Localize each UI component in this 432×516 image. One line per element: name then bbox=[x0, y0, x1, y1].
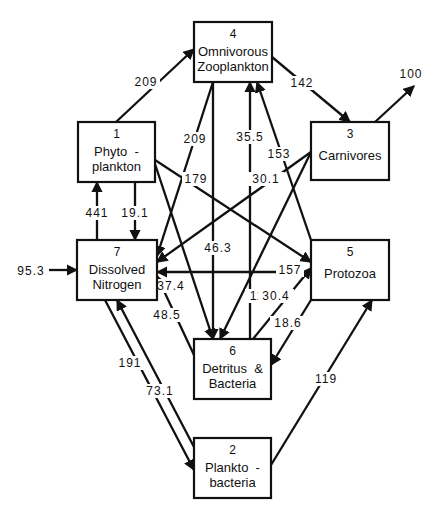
flow-label-group: 119 bbox=[312, 372, 340, 386]
flow-label-group: 48.5 bbox=[149, 308, 185, 322]
flow-label-group: 37.4 bbox=[153, 279, 189, 293]
node-label-line: Dissolved bbox=[89, 262, 145, 277]
flow-value-import-to-7: 95.3 bbox=[17, 264, 44, 278]
flow-arrow-2-to-7 bbox=[117, 300, 194, 447]
flow-value-7-to-2: 191 bbox=[118, 356, 141, 370]
flow-arrow-3-to-export bbox=[375, 86, 414, 122]
flow-value-7-to-1: 441 bbox=[85, 206, 108, 220]
flow-label-group: 179 bbox=[182, 172, 210, 186]
node-6: 6Detritus &Bacteria bbox=[194, 339, 271, 399]
node-number: 5 bbox=[347, 245, 354, 259]
flow-label-group: 73.1 bbox=[142, 384, 178, 398]
node-number: 7 bbox=[114, 245, 121, 259]
flow-label-group: 100 bbox=[397, 67, 425, 81]
flow-label-group: 30.1 bbox=[248, 172, 284, 186]
flow-label-group: 35.5 bbox=[232, 130, 268, 144]
flow-value-3-to-7: 30.1 bbox=[252, 172, 279, 186]
flow-label-group: 95.3 bbox=[13, 264, 49, 278]
node-4: 4OmnivorousZooplankton bbox=[194, 22, 272, 82]
flow-label-group: 18.6 bbox=[270, 316, 306, 330]
flow-label-group: 46.3 bbox=[200, 241, 236, 255]
node-label-line: Zooplankton bbox=[197, 59, 269, 74]
node-label-line: Protozoa bbox=[324, 266, 377, 281]
flow-label-group: 153 bbox=[265, 147, 293, 161]
flow-value-1-to-4: 209 bbox=[134, 75, 157, 89]
flow-label-group: 441 bbox=[83, 206, 111, 220]
node-label-line: Bacteria bbox=[209, 376, 257, 391]
flow-label-group: 191 bbox=[116, 356, 144, 370]
node-label-line: Omnivorous bbox=[198, 44, 269, 59]
flow-value-4-to-3: 142 bbox=[290, 76, 313, 90]
flow-value-5-to-7: 157 bbox=[278, 263, 301, 277]
flow-value-2-to-5: 119 bbox=[315, 372, 337, 386]
node-1: 1Phyto -plankton bbox=[78, 122, 155, 182]
flow-arrow-4-to-7 bbox=[157, 82, 213, 256]
node-number: 1 bbox=[113, 127, 120, 141]
flow-value-1-to-5: 179 bbox=[184, 172, 207, 186]
flow-label-group: 157 bbox=[276, 263, 304, 277]
flow-value-1-to-6: 37.4 bbox=[157, 279, 184, 293]
node-label-line: plankton bbox=[92, 159, 141, 174]
flow-value-2-to-7: 73.1 bbox=[146, 384, 173, 398]
flow-label-group: 30.4 bbox=[258, 289, 294, 303]
flow-value-6-to-7: 48.5 bbox=[153, 308, 180, 322]
flow-value-6-to-5: 30.4 bbox=[262, 289, 289, 303]
flow-value-5-to-6: 18.6 bbox=[274, 316, 301, 330]
flow-label-group: 209 bbox=[132, 75, 160, 89]
flow-value-1-to-7: 19.1 bbox=[121, 206, 148, 220]
node-2: 2Plankto -bacteria bbox=[194, 438, 271, 498]
flow-label-group: 209 bbox=[181, 132, 209, 146]
flow-value-5-to-4: 153 bbox=[267, 147, 290, 161]
flow-value-4-to-7: 209 bbox=[183, 132, 206, 146]
node-label-line: Phyto - bbox=[94, 144, 139, 159]
node-number: 2 bbox=[229, 443, 236, 457]
node-label-line: Carnivores bbox=[319, 148, 382, 163]
node-5: 5Protozoa bbox=[311, 240, 389, 300]
flow-value-3-to-export: 100 bbox=[399, 67, 422, 81]
node-label-line: Nitrogen bbox=[92, 277, 141, 292]
nitrogen-flow-diagram: 20914210095.344119.120917937.446.335.515… bbox=[0, 0, 432, 516]
node-label-line: Plankto - bbox=[205, 460, 260, 475]
flow-label-group: 142 bbox=[288, 76, 316, 90]
node-number: 6 bbox=[229, 344, 236, 358]
node-label-line: bacteria bbox=[209, 475, 256, 490]
node-7: 7DissolvedNitrogen bbox=[77, 240, 157, 300]
node-number: 3 bbox=[347, 127, 354, 141]
node-number: 4 bbox=[230, 27, 237, 41]
node-label-line: Detritus & bbox=[202, 361, 263, 376]
node-3: 3Carnivores bbox=[311, 122, 389, 180]
flow-value-4-to-6: 46.3 bbox=[204, 241, 231, 255]
flow-value-6-to-4: 35.5 bbox=[236, 130, 263, 144]
flow-label-group: 19.1 bbox=[117, 206, 153, 220]
